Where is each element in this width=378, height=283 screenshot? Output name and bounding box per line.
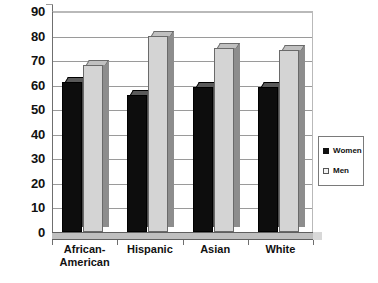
- bar-men-0: [83, 60, 103, 232]
- bar-front-face: [83, 65, 103, 232]
- plot-floor: [52, 232, 313, 240]
- x-axis-tick-4: [313, 240, 314, 245]
- bar-group: [249, 12, 314, 232]
- bar-side-face: [103, 60, 109, 227]
- legend-label-men: Men: [333, 167, 349, 175]
- y-axis-tick-0: 0: [38, 226, 45, 239]
- bar-women-1: [127, 90, 147, 233]
- legend-label-women: Women: [333, 147, 362, 155]
- bar-women-2: [193, 82, 213, 232]
- chart-legend: Women Men: [318, 136, 364, 186]
- bar-top-face: [282, 45, 305, 50]
- bar-side-face: [168, 31, 174, 227]
- y-axis-tick-90: 90: [31, 5, 45, 18]
- x-axis-category-labels: African- AmericanHispanicAsianWhite: [52, 243, 313, 283]
- bar-front-face: [258, 87, 278, 232]
- plot-floor-cap: [313, 225, 322, 233]
- plot-floor-right-edge: [313, 232, 322, 240]
- legend-entry-men: Men: [323, 167, 349, 175]
- bar-top-face: [151, 31, 174, 36]
- bar-women-3: [258, 82, 278, 232]
- bar-front-face: [148, 36, 168, 232]
- legend-swatch-men-icon: [323, 168, 329, 174]
- y-axis-tick-50: 50: [31, 103, 45, 116]
- category-label-3: White: [248, 243, 313, 256]
- plot-area: [52, 11, 313, 232]
- bar-men-1: [148, 31, 168, 232]
- category-label-0: African- American: [52, 243, 117, 269]
- bar-front-face: [214, 48, 234, 232]
- y-axis-tick-80: 80: [31, 30, 45, 43]
- bar-top-face: [86, 60, 109, 65]
- bar-chart: 9080706050403020100 African- AmericanHis…: [0, 0, 378, 283]
- bar-group: [53, 12, 118, 232]
- y-axis-tick-30: 30: [31, 152, 45, 165]
- bar-front-face: [279, 50, 299, 232]
- y-axis-tick-40: 40: [31, 128, 45, 141]
- y-axis-tick-70: 70: [31, 54, 45, 67]
- bar-top-face: [217, 43, 240, 48]
- y-axis-tick-labels: 9080706050403020100: [0, 0, 48, 283]
- category-label-1: Hispanic: [117, 243, 182, 256]
- bar-men-3: [279, 45, 299, 232]
- legend-entry-women: Women: [323, 147, 362, 155]
- bar-men-2: [214, 43, 234, 232]
- plot-left-wall-top: [46, 4, 53, 5]
- bar-front-face: [127, 95, 147, 233]
- category-label-2: Asian: [183, 243, 248, 256]
- bar-front-face: [193, 87, 213, 232]
- y-axis-tick-60: 60: [31, 79, 45, 92]
- y-axis-tick-20: 20: [31, 177, 45, 190]
- bar-front-face: [62, 82, 82, 232]
- bar-side-face: [299, 45, 305, 227]
- bar-side-face: [234, 43, 240, 227]
- bar-group: [118, 12, 183, 232]
- legend-swatch-women-icon: [323, 148, 329, 154]
- bar-group: [184, 12, 249, 232]
- bar-women-0: [62, 77, 82, 232]
- y-axis-tick-10: 10: [31, 201, 45, 214]
